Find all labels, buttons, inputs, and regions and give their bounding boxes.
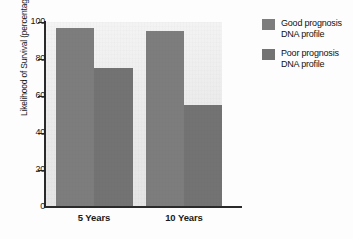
x-axis-line	[44, 206, 242, 208]
y-tick-20: 20	[0, 170, 45, 171]
bar-10years-good	[146, 31, 184, 207]
y-axis-line	[44, 21, 46, 208]
legend-swatch-poor-prognosis	[262, 49, 275, 60]
legend-swatch-good-prognosis	[262, 19, 275, 30]
plot-area	[45, 22, 222, 207]
legend: Good prognosis DNA profile Poor prognosi…	[262, 18, 352, 78]
y-tick-label: 0	[19, 202, 45, 211]
y-axis-title: Likelihood of Survival (percentage)	[19, 0, 29, 134]
y-tick-label: 20	[19, 165, 45, 174]
x-axis-label-10years: 10 Years	[140, 213, 228, 223]
bar-chart-figure: 100 80 60 40 20 0 Likelihood of Survival…	[0, 0, 353, 239]
y-tick-0: 0	[0, 207, 45, 208]
x-axis-label-5years: 5 Years	[50, 213, 138, 223]
bar-5years-good	[56, 28, 94, 207]
bar-5years-poor	[94, 68, 133, 207]
legend-label-poor-prognosis: Poor prognosis DNA profile	[281, 48, 339, 69]
legend-item-poor-prognosis: Poor prognosis DNA profile	[262, 48, 352, 69]
legend-item-good-prognosis: Good prognosis DNA profile	[262, 18, 352, 39]
bar-10years-poor	[184, 105, 222, 207]
legend-label-good-prognosis: Good prognosis DNA profile	[281, 18, 342, 39]
